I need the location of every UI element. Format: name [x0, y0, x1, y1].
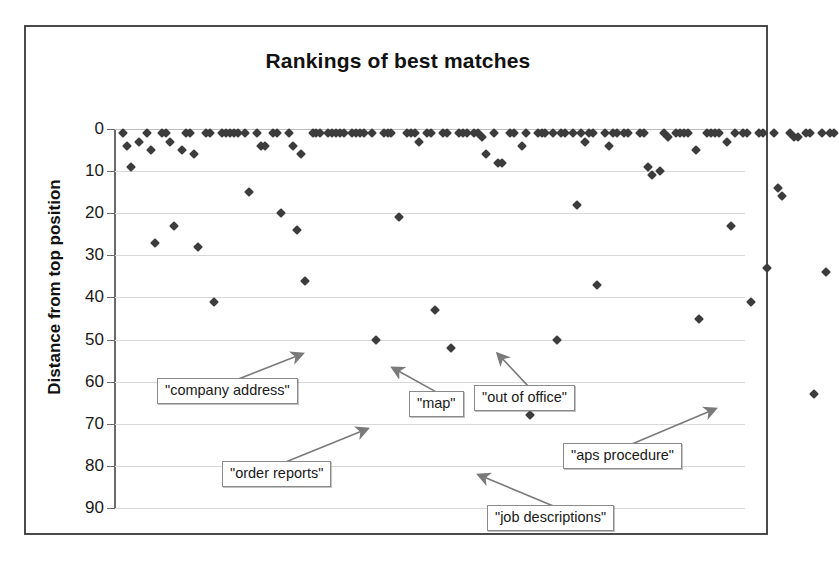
data-point — [414, 137, 424, 147]
y-tick-0 — [107, 129, 115, 130]
y-axis-tick-label: 80 — [38, 457, 104, 474]
y-tick-40 — [107, 297, 115, 298]
data-point — [296, 149, 306, 159]
y-tick-60 — [107, 382, 115, 383]
data-point — [193, 242, 203, 252]
data-point — [300, 276, 310, 286]
y-axis-tick-label: 40 — [38, 288, 104, 305]
data-point — [276, 208, 286, 218]
y-tick-50 — [107, 340, 115, 341]
data-point — [177, 145, 187, 155]
y-axis-tick-label: 20 — [38, 204, 104, 221]
data-point — [572, 200, 582, 210]
y-axis-tick-label: 30 — [38, 246, 104, 263]
y-axis-tick-label: 50 — [38, 331, 104, 348]
data-point — [244, 187, 254, 197]
data-point — [169, 221, 179, 231]
y-tick-10 — [107, 171, 115, 172]
data-point — [580, 137, 590, 147]
data-point — [809, 389, 819, 399]
gridline-90 — [115, 508, 745, 509]
data-point — [165, 137, 175, 147]
annotation-callout: "company address" — [157, 378, 298, 404]
y-axis-tick-label: 0 — [38, 120, 104, 137]
data-point — [726, 221, 736, 231]
y-tick-70 — [107, 424, 115, 425]
y-axis-tick-label: 90 — [38, 499, 104, 516]
data-point — [770, 128, 780, 138]
data-point — [150, 238, 160, 248]
data-point — [722, 137, 732, 147]
y-axis-tick-label: 70 — [38, 415, 104, 432]
annotation-callout: "out of office" — [474, 385, 575, 411]
gridline-70 — [115, 424, 745, 425]
data-point — [552, 335, 562, 345]
gridline-20 — [115, 213, 745, 214]
data-point — [189, 149, 199, 159]
data-point — [604, 141, 614, 151]
figure-frame: Rankings of best matches Distance from t… — [24, 25, 768, 535]
gridline-50 — [115, 340, 745, 341]
data-point — [288, 141, 298, 151]
gridline-40 — [115, 297, 745, 298]
data-point — [517, 141, 527, 151]
gridline-30 — [115, 255, 745, 256]
data-point — [292, 225, 302, 235]
data-point — [477, 132, 487, 142]
data-point — [134, 137, 144, 147]
data-point — [481, 149, 491, 159]
data-point — [446, 343, 456, 353]
annotation-callout: "map" — [409, 391, 464, 417]
data-point — [691, 145, 701, 155]
y-axis-tick-label: 60 — [38, 373, 104, 390]
y-axis-tick-label: 10 — [38, 162, 104, 179]
annotation-callout: "aps procedure" — [563, 443, 682, 469]
data-point — [146, 145, 156, 155]
data-point — [371, 335, 381, 345]
data-point — [777, 191, 787, 201]
data-point — [821, 267, 831, 277]
data-point — [746, 297, 756, 307]
data-point — [762, 263, 772, 273]
data-point — [430, 305, 440, 315]
y-axis-labels: 0102030405060708090 — [32, 27, 104, 537]
page-title: Rankings of best matches — [26, 49, 770, 73]
annotation-callout: "order reports" — [222, 461, 331, 487]
y-tick-20 — [107, 213, 115, 214]
data-point — [695, 314, 705, 324]
data-point — [592, 280, 602, 290]
data-point — [122, 141, 132, 151]
data-point — [525, 410, 535, 420]
y-tick-90 — [107, 508, 115, 509]
y-tick-80 — [107, 466, 115, 467]
y-tick-30 — [107, 255, 115, 256]
annotation-callout: "job descriptions" — [487, 505, 614, 531]
